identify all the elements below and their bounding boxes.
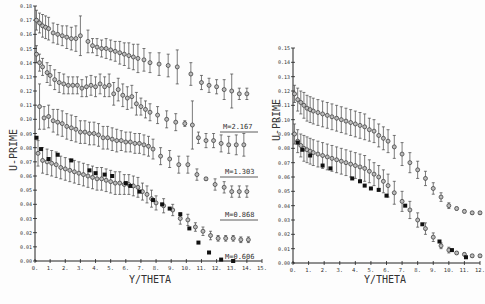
left-chart: 0.000.010.020.030.040.050.060.070.080.09… — [20, 3, 267, 271]
data-point — [416, 168, 420, 172]
data-point — [377, 133, 381, 137]
data-point — [207, 83, 211, 87]
data-point — [113, 49, 117, 53]
data-point — [77, 171, 81, 175]
legend-m-2167: M=2.167 — [220, 123, 258, 132]
x-tick-label: 4. — [352, 267, 359, 273]
data-point — [131, 55, 135, 59]
y-tick-label: 0.08 — [20, 145, 32, 151]
data-point-square — [328, 166, 332, 170]
x-tick-label: 2. — [321, 267, 328, 273]
y-tick-label: 0.05 — [20, 187, 32, 193]
data-point — [195, 173, 199, 177]
y-tick-label: 0.03 — [20, 216, 32, 222]
data-point — [353, 122, 357, 126]
data-point-square — [94, 171, 98, 175]
data-point — [104, 47, 108, 51]
data-point — [69, 37, 73, 41]
x-tick-label: 1. — [305, 267, 312, 273]
y-tick-label: 0.09 — [20, 131, 32, 137]
left-x-axis-label: Y/THETA — [129, 274, 171, 285]
data-point — [142, 143, 146, 147]
data-point — [97, 133, 101, 137]
data-point-square — [124, 181, 128, 185]
data-point — [470, 254, 474, 258]
data-point — [330, 156, 334, 160]
data-point — [455, 251, 459, 255]
data-point — [400, 152, 404, 156]
x-tick-label: 8. — [153, 265, 160, 271]
data-point — [478, 254, 482, 258]
y-tick-label: 0.15 — [20, 46, 32, 52]
right-y-axis-label: U-PRIME — [271, 99, 282, 141]
data-point — [227, 143, 231, 147]
data-point — [78, 130, 82, 134]
data-point-square — [321, 164, 325, 168]
data-point — [148, 110, 152, 114]
data-point-square — [219, 258, 223, 262]
legend-m-0868: M=0.868 — [220, 211, 258, 220]
data-point — [392, 145, 396, 149]
data-point — [367, 169, 371, 173]
data-point — [349, 121, 353, 125]
x-tick-label: 11. — [196, 265, 206, 271]
data-point — [431, 186, 435, 190]
data-point — [222, 185, 226, 189]
legend-label-m2167: M=2.167 — [223, 123, 253, 131]
data-point — [408, 161, 412, 165]
data-point — [363, 166, 367, 170]
data-point — [439, 195, 443, 199]
data-point — [104, 178, 108, 182]
legend-label-m1303: M=1.303 — [225, 168, 255, 176]
y-tick-label: 0.01 — [20, 244, 32, 250]
y-tick-label: 0.01 — [278, 246, 290, 252]
data-point — [112, 92, 116, 96]
data-point — [168, 157, 172, 161]
data-point — [209, 234, 213, 238]
data-point — [119, 139, 123, 143]
y-tick-label: 0.05 — [278, 188, 290, 194]
x-tick-label: 12. — [212, 265, 222, 271]
y-tick-label: 0.10 — [20, 116, 32, 122]
data-point — [183, 122, 187, 126]
data-point — [98, 82, 102, 86]
data-point — [41, 65, 45, 69]
data-point — [358, 165, 362, 169]
data-point — [335, 158, 339, 162]
data-point-square — [168, 207, 172, 211]
data-point-square — [137, 190, 141, 194]
y-tick-label: 0.13 — [20, 74, 32, 80]
series-lower — [293, 124, 482, 258]
data-point — [42, 116, 46, 120]
data-point — [330, 115, 334, 119]
data-point-square — [385, 194, 389, 198]
x-tick-label: 5. — [107, 265, 114, 271]
data-point — [47, 27, 51, 31]
data-point — [339, 118, 343, 122]
data-point — [367, 128, 371, 132]
data-point — [68, 168, 72, 172]
x-tick-label: 6. — [122, 265, 129, 271]
data-point — [50, 161, 54, 165]
data-point — [339, 159, 343, 163]
data-point-square — [196, 241, 200, 245]
data-point — [178, 217, 182, 221]
data-point — [103, 85, 107, 89]
data-point — [157, 62, 161, 66]
data-point — [335, 116, 339, 120]
data-point — [325, 155, 329, 159]
x-tick-label: 10. — [181, 265, 191, 271]
data-point — [69, 126, 73, 130]
data-point — [86, 174, 90, 178]
data-point — [201, 229, 205, 233]
x-tick-label: 11. — [459, 267, 469, 273]
y-tick-label: 0.00 — [20, 258, 32, 264]
data-point — [174, 120, 178, 124]
data-point — [56, 120, 60, 124]
data-point — [193, 225, 197, 229]
data-point — [59, 166, 63, 170]
data-point-square — [377, 188, 381, 192]
data-point — [113, 181, 117, 185]
data-point — [325, 113, 329, 117]
series-m-0-606 — [36, 141, 250, 243]
